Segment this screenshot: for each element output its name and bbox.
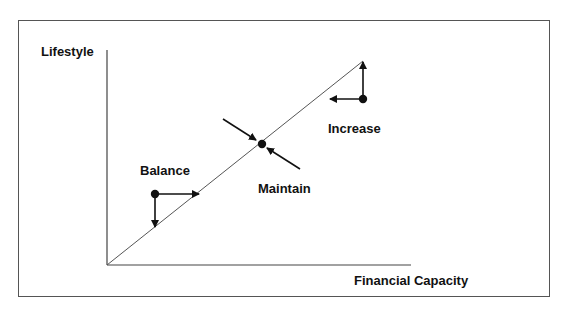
maintain-point [223,119,300,169]
balance-label: Balance [140,164,190,177]
y-axis-label: Lifestyle [41,45,94,58]
maintain-label: Maintain [258,182,311,195]
balance-point [151,190,199,227]
x-axis-label: Financial Capacity [354,274,468,287]
increase-label: Increase [328,122,381,135]
